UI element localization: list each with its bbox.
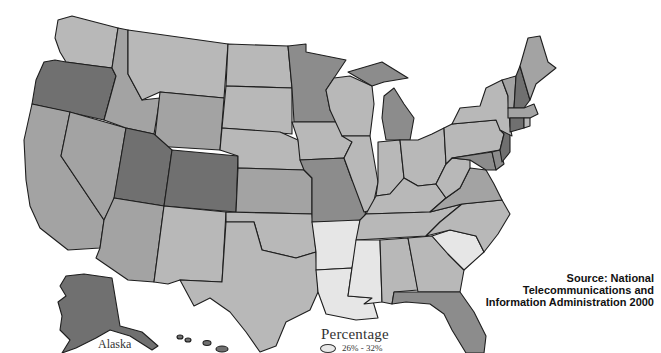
source-note: Source: National Telecommunications and …	[486, 272, 654, 308]
state-rhode-island	[524, 118, 530, 128]
state-florida	[392, 292, 486, 353]
source-line-1: Source: National	[486, 272, 654, 284]
legend-title: Percentage	[321, 326, 389, 343]
state-north-dakota	[226, 44, 292, 88]
state-washington	[55, 16, 118, 68]
source-line-2: Telecommunications and	[486, 284, 654, 296]
state-south-dakota	[222, 86, 292, 134]
state-montana	[128, 30, 228, 100]
legend-entry: 26% - 32%	[320, 343, 383, 353]
state-colorado	[164, 150, 238, 212]
legend-entry-label: 26% - 32%	[342, 343, 383, 353]
state-connecticut	[510, 118, 524, 132]
alaska-label: Alaska	[98, 337, 131, 352]
state-kansas	[236, 168, 312, 214]
state-new-mexico	[154, 206, 226, 284]
map-figure: Alaska Percentage 26% - 32% Source: Nati…	[0, 0, 661, 353]
legend-swatch-icon	[320, 344, 336, 353]
state-hawaii	[177, 335, 228, 352]
state-wyoming	[154, 92, 224, 150]
source-line-3: Information Administration 2000	[486, 296, 654, 308]
